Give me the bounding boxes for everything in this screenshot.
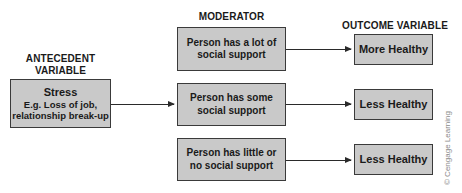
moderator-box-some-support: Person has some social support <box>177 83 286 126</box>
moderator-line2: social support <box>197 49 265 62</box>
outcome-box-less-healthy-1: Less Healthy <box>354 89 433 120</box>
arrow-antecedent-to-moderator <box>111 104 174 105</box>
moderator-box-high-support: Person has a lot of social support <box>177 27 286 71</box>
moderator-box-low-support: Person has little or no social support <box>177 138 286 181</box>
outcome-box-more-healthy: More Healthy <box>354 34 433 65</box>
antecedent-title: Stress <box>44 86 78 99</box>
moderator-line2: social support <box>197 105 265 118</box>
moderator-heading: MODERATOR <box>177 11 286 23</box>
outcome-label: Less Healthy <box>360 153 428 166</box>
outcome-heading: OUTCOME VARIABLE <box>340 20 450 32</box>
moderator-line1: Person has some <box>190 92 273 105</box>
arrow-moderator-to-outcome-3 <box>286 160 351 161</box>
moderator-line1: Person has little or <box>186 147 276 160</box>
antecedent-heading: ANTECEDENT VARIABLE <box>10 53 111 77</box>
arrow-moderator-to-outcome-1 <box>286 49 351 50</box>
arrow-moderator-to-outcome-2 <box>286 104 351 105</box>
copyright-notice: © Cengage Learning <box>443 111 452 185</box>
antecedent-heading-line1: ANTECEDENT <box>10 53 111 65</box>
antecedent-heading-line2: VARIABLE <box>10 65 111 77</box>
outcome-box-less-healthy-2: Less Healthy <box>354 144 433 175</box>
outcome-label: More Healthy <box>359 43 428 56</box>
moderator-line2: no social support <box>190 160 273 173</box>
antecedent-example-line1: E.g. Loss of job, <box>24 99 97 111</box>
moderator-line1: Person has a lot of <box>187 37 276 50</box>
antecedent-example-line2: relationship break-up <box>12 110 109 122</box>
outcome-label: Less Healthy <box>360 98 428 111</box>
antecedent-box: Stress E.g. Loss of job, relationship br… <box>10 79 111 128</box>
